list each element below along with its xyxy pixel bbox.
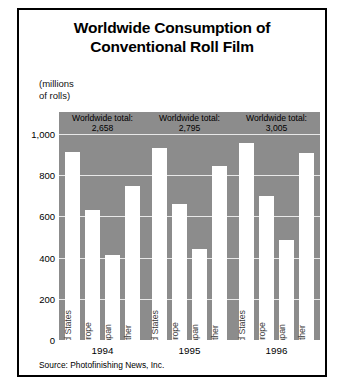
bar-category-label: Japan: [277, 324, 287, 340]
bar: Other: [125, 186, 140, 341]
bar: United States: [152, 148, 167, 340]
total-caption: Worldwide total:: [246, 113, 307, 123]
total-caption: Worldwide total:: [159, 113, 220, 123]
y-axis-tick-label: 800: [39, 170, 55, 181]
group-total-label: Worldwide total:2,658: [59, 113, 146, 134]
bar-category-label: United States: [150, 310, 160, 340]
bar-category-label: Europe: [257, 322, 267, 340]
gridline: [59, 175, 320, 176]
units-line-1: (millions: [39, 78, 74, 90]
y-axis-tick-label: 0: [50, 335, 55, 346]
bar: Other: [212, 166, 227, 340]
total-value: 2,795: [146, 123, 233, 133]
bar: Europe: [172, 204, 187, 340]
bar-category-label: Japan: [190, 324, 200, 340]
y-axis-tick-label: 600: [39, 211, 55, 222]
units-line-2: of rolls): [39, 90, 74, 102]
bar-category-label: Other: [123, 325, 133, 340]
group-total-label: Worldwide total:2,795: [146, 113, 233, 134]
total-value: 2,658: [59, 123, 146, 133]
total-value: 3,005: [233, 123, 320, 133]
y-axis-tick-label: 400: [39, 252, 55, 263]
total-caption: Worldwide total:: [72, 113, 133, 123]
y-axis-tick-label: 1,000: [31, 129, 55, 140]
gridline: [59, 134, 320, 135]
bar: Europe: [85, 210, 100, 340]
bar-category-label: Europe: [83, 322, 93, 340]
title-line-2: Conventional Roll Film: [33, 38, 311, 57]
x-axis-group-label: 1996: [233, 345, 320, 356]
bar-category-label: United States: [237, 310, 247, 340]
bar: United States: [239, 143, 254, 340]
chart-figure: Worldwide Consumption of Conventional Ro…: [17, 8, 327, 377]
bar: Japan: [279, 240, 294, 340]
bar-category-label: United States: [63, 310, 73, 340]
y-axis-units-label: (millions of rolls): [39, 78, 74, 102]
bar-category-label: Other: [297, 325, 307, 340]
group-total-label: Worldwide total:3,005: [233, 113, 320, 134]
bar: Japan: [192, 249, 207, 340]
plot-area: Worldwide total:2,658United StatesEurope…: [59, 112, 320, 340]
plot-area-wrapper: Worldwide total:2,658United StatesEurope…: [59, 112, 320, 340]
x-axis-group-label: 1994: [59, 345, 146, 356]
source-note: Source: Photofinishing News, Inc.: [39, 360, 164, 370]
bar: Europe: [259, 196, 274, 340]
y-axis-tick-label: 200: [39, 293, 55, 304]
bar-category-label: Europe: [170, 322, 180, 340]
bar: United States: [65, 152, 80, 340]
page-title: Worldwide Consumption of Conventional Ro…: [19, 10, 325, 57]
x-axis-group-label: 1995: [146, 345, 233, 356]
bar-category-label: Other: [210, 325, 220, 340]
title-line-1: Worldwide Consumption of: [33, 19, 311, 38]
bar: Japan: [105, 255, 120, 340]
bar: Other: [299, 153, 314, 340]
bar-category-label: Japan: [103, 324, 113, 340]
